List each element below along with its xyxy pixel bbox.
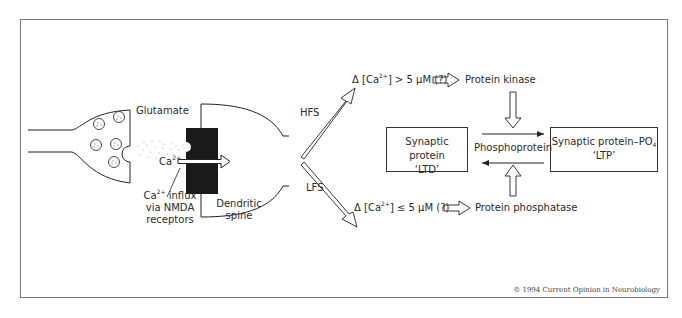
calcium-charge: 2+ <box>172 154 181 161</box>
influx-charge: 2+ <box>157 188 166 195</box>
phosphoprotein-label: Phosphoprotein <box>474 142 552 154</box>
influx-ion: Ca <box>144 190 157 201</box>
glutamate-label: Glutamate <box>136 105 189 117</box>
influx-text: influx <box>166 190 197 201</box>
influx-line2: via NMDA <box>135 202 205 214</box>
hfs-label: HFS <box>300 107 319 119</box>
copyright-notice: © 1994 Current Opinion in Neurobiology <box>513 286 660 294</box>
lfs-cond-suffix: ] ≤ 5 μM (?) <box>390 202 449 213</box>
influx-line3: receptors <box>135 214 205 226</box>
protein-phosphatase-label: Protein phosphatase <box>475 202 577 214</box>
lfs-label: LFS <box>306 182 324 194</box>
protein-kinase-label: Protein kinase <box>465 74 536 86</box>
lfs-cond-prefix: Δ [Ca <box>354 202 381 213</box>
hfs-cond-suffix: ] > 5 μM (?) <box>388 74 447 85</box>
ltp-box-line2: ‘LTP’ <box>551 149 657 163</box>
kinase-down-arrow-icon <box>505 92 521 128</box>
calcium-influx-label: Ca2+ influx via NMDA receptors <box>135 190 205 226</box>
ltd-box-line1: Synaptic protein <box>387 135 467 163</box>
influx-line1: Ca2+ influx <box>135 190 205 202</box>
ltp-box-line1: Synaptic protein–PO4 <box>551 135 657 149</box>
hfs-cond-prefix: Δ [Ca <box>352 74 379 85</box>
ltp-line1-text: Synaptic protein–PO <box>552 136 653 147</box>
lfs-arrow-icon <box>301 162 357 227</box>
lfs-cond-charge: 2+ <box>381 200 390 207</box>
spine-line1: Dendritic <box>214 198 264 210</box>
calcium-ion-text: Ca <box>159 156 172 167</box>
ltd-state-box: Synaptic protein ‘LTD’ <box>386 127 468 172</box>
ltp-state-box: Synaptic protein–PO4 ‘LTP’ <box>550 127 658 172</box>
hfs-condition: Δ [Ca2+] > 5 μM (?) <box>352 74 447 86</box>
phosphatase-up-arrow-icon <box>505 165 521 196</box>
calcium-ion-label: Ca2+ <box>159 156 181 168</box>
ltp-line1-sub: 4 <box>653 141 657 148</box>
dendritic-spine-label: Dendritic spine <box>214 198 264 222</box>
vesicle-icons <box>91 112 125 168</box>
ltd-box-line2: ‘LTD’ <box>387 163 467 177</box>
hfs-cond-charge: 2+ <box>379 72 388 79</box>
hfs-arrow-icon <box>301 88 355 159</box>
lfs-condition: Δ [Ca2+] ≤ 5 μM (?) <box>354 202 449 214</box>
spine-line2: spine <box>214 210 264 222</box>
